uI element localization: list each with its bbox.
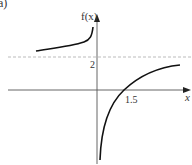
x-axis-label: x xyxy=(185,92,190,103)
panel-label: a) xyxy=(0,0,7,9)
y-tick-label: 2 xyxy=(90,60,95,70)
y-axis-label: f(x) xyxy=(81,11,98,22)
x-tick-label: 1.5 xyxy=(125,95,138,105)
curve-right-branch xyxy=(100,65,180,160)
function-graph xyxy=(0,0,192,165)
curve-left-branch xyxy=(36,27,93,51)
